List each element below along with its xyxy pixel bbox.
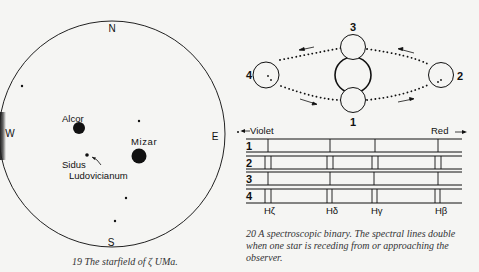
arrow-left-icon	[299, 48, 305, 51]
orbit-path	[280, 48, 342, 60]
figure-20-caption: 20 A spectroscopic binary. The spectral …	[246, 228, 476, 264]
spectrum-row-4: 4	[246, 190, 253, 202]
companion-position-4	[253, 62, 279, 88]
arrowhead-icon	[92, 157, 96, 160]
label-ludovicianum: Ludovicianum	[69, 170, 128, 181]
compass-south: S	[108, 237, 115, 248]
line-label-h-zeta: Hζ	[264, 205, 276, 216]
arrow-right-icon	[410, 98, 415, 101]
star-faint	[138, 120, 140, 122]
compass-north: N	[108, 23, 115, 34]
label-sidus: Sidus	[62, 159, 86, 170]
compass-west: W	[5, 128, 15, 139]
violet-label: Violet	[250, 125, 274, 136]
spectral-lines	[265, 139, 441, 203]
position-label-2: 2	[457, 70, 463, 82]
star-mizar	[132, 149, 147, 164]
star-faint	[125, 197, 127, 199]
arrow-right-icon	[312, 102, 317, 105]
star-sidus-ludovicianum	[85, 153, 89, 157]
spectrum-row-1: 1	[246, 140, 252, 152]
arrow-left-icon	[398, 48, 403, 51]
label-mizar: Mizar	[131, 136, 157, 147]
position-label-3: 3	[350, 21, 356, 33]
companion-position-2	[429, 63, 454, 88]
spectrum-row-3: 3	[246, 173, 252, 185]
star-faint-outside	[237, 131, 239, 133]
line-label-h-delta: Hδ	[326, 205, 338, 216]
field-of-view-circle	[0, 21, 225, 247]
position-label-1: 1	[350, 116, 356, 128]
spectrum-diagram: Violet Red 1 2 3 4	[241, 125, 468, 216]
binary-orbit-diagram: 3 1 4 2	[246, 21, 463, 128]
spectrum-row-2: 2	[246, 157, 252, 169]
star-faint	[114, 220, 116, 222]
spectrum-strip-borders	[246, 139, 462, 203]
companion-position-3	[341, 35, 366, 60]
line-label-h-gamma: Hγ	[371, 205, 383, 216]
figure-19-caption: 19 The starfield of ζ UMa.	[72, 256, 178, 268]
red-label: Red	[431, 125, 448, 136]
position-label-4: 4	[246, 69, 253, 81]
orbit-path	[367, 84, 430, 100]
label-alcor: Alcor	[62, 113, 84, 124]
starfield-figure: N S E W Alcor Mizar Sidus Ludovicianum	[0, 21, 239, 248]
orbit-path	[281, 86, 341, 100]
compass-east: E	[212, 131, 219, 142]
companion-position-1	[341, 88, 366, 113]
line-label-h-beta: Hβ	[435, 205, 448, 216]
orbit-path	[367, 49, 428, 64]
star-faint	[21, 85, 23, 87]
